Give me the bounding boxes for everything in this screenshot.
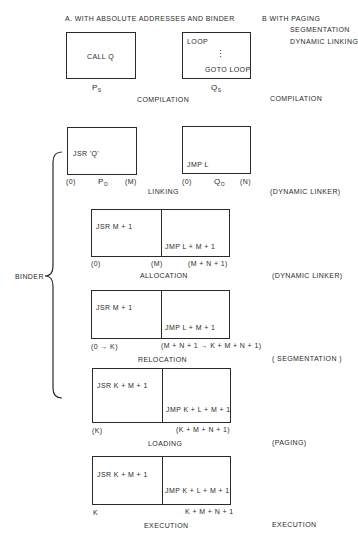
binder-label: BINDER	[15, 273, 44, 280]
